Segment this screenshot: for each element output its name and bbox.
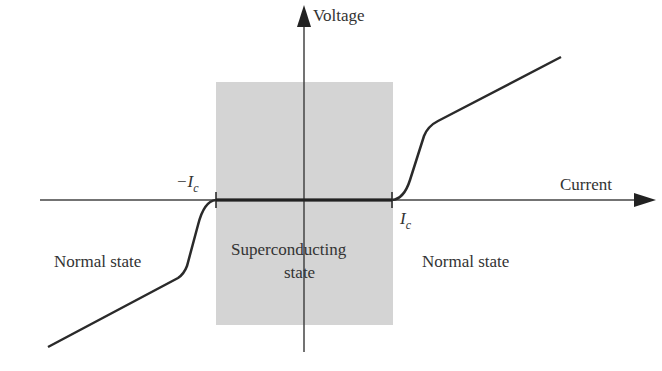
voltage-label: Voltage	[313, 7, 365, 24]
left-normal-state-label: Normal state	[54, 253, 141, 270]
neg-ic-label: −Ic	[176, 173, 198, 190]
voltage-axis-arrow-icon	[297, 5, 311, 27]
current-label: Current	[560, 176, 612, 193]
ic-symbol: I	[400, 209, 406, 228]
superconducting-label-line1: Superconducting	[231, 241, 346, 258]
ic-subscript: c	[193, 181, 198, 195]
right-normal-state-label: Normal state	[422, 253, 509, 270]
current-axis-arrow-icon	[634, 193, 656, 207]
superconducting-label-line2: state	[284, 264, 315, 281]
neg-sign: −	[176, 172, 187, 191]
pos-ic-label: Ic	[400, 210, 411, 227]
ic-subscript: c	[406, 218, 411, 232]
